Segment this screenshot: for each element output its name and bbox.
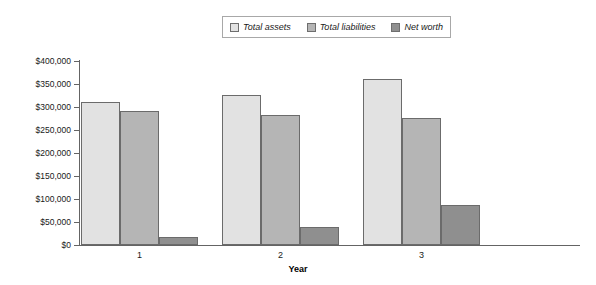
y-axis-labels: $0$50,000$100,000$150,000$200,000$250,00… bbox=[0, 0, 71, 285]
y-axis-tick-label: $0 bbox=[3, 241, 71, 250]
y-axis-tick-label: $300,000 bbox=[3, 103, 71, 112]
y-axis-tick-label: $100,000 bbox=[3, 195, 71, 204]
x-axis-tick-label: 2 bbox=[251, 251, 311, 260]
plot-area bbox=[79, 61, 579, 245]
bar bbox=[120, 111, 159, 245]
y-axis-tick-label: $250,000 bbox=[3, 126, 71, 135]
bar bbox=[222, 95, 261, 245]
x-axis-tick-label: 3 bbox=[392, 251, 452, 260]
y-axis-tick bbox=[74, 245, 79, 246]
y-axis-tick-label: $350,000 bbox=[3, 80, 71, 89]
legend-swatch-net-worth bbox=[391, 23, 400, 32]
y-axis-tick-label: $200,000 bbox=[3, 149, 71, 158]
bar-chart: Total assets Total liabilities Net worth… bbox=[0, 0, 596, 285]
bar bbox=[441, 205, 480, 245]
legend-swatch-total-liabilities bbox=[307, 23, 316, 32]
legend-item-net-worth: Net worth bbox=[391, 23, 443, 32]
legend-label-net-worth: Net worth bbox=[404, 23, 443, 32]
chart-legend: Total assets Total liabilities Net worth bbox=[222, 16, 451, 38]
legend-swatch-total-assets bbox=[230, 23, 239, 32]
y-axis-tick-label: $50,000 bbox=[3, 218, 71, 227]
bar bbox=[159, 237, 198, 245]
legend-item-total-liabilities: Total liabilities bbox=[307, 23, 376, 32]
x-axis-line bbox=[79, 245, 580, 246]
bar bbox=[402, 118, 441, 245]
bar bbox=[300, 227, 339, 245]
legend-item-total-assets: Total assets bbox=[230, 23, 291, 32]
bar bbox=[81, 102, 120, 245]
y-axis-tick-label: $400,000 bbox=[3, 57, 71, 66]
y-axis-tick-label: $150,000 bbox=[3, 172, 71, 181]
bar bbox=[261, 115, 300, 245]
x-axis-tick-label: 1 bbox=[110, 251, 170, 260]
legend-label-total-assets: Total assets bbox=[243, 23, 291, 32]
legend-label-total-liabilities: Total liabilities bbox=[320, 23, 376, 32]
x-axis-title: Year bbox=[0, 265, 596, 274]
bar bbox=[363, 79, 402, 245]
